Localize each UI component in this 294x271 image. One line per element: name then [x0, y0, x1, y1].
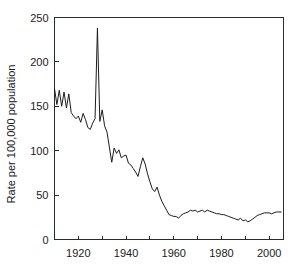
data-series-line	[55, 28, 282, 222]
x-tick-label: 1940	[114, 247, 138, 259]
y-axis-tick-labels: 050100150200250	[30, 12, 48, 246]
x-axis-tick-labels: 19201940196019802000	[66, 247, 281, 259]
y-tick-label: 200	[30, 56, 48, 68]
y-axis-ticks	[55, 18, 59, 240]
y-tick-label: 150	[30, 100, 48, 112]
x-tick-label: 1920	[66, 247, 90, 259]
x-tick-label: 1960	[162, 247, 186, 259]
y-tick-label: 0	[42, 234, 48, 246]
line-chart: 050100150200250 19201940196019802000 Rat…	[0, 0, 294, 271]
x-axis-ticks	[55, 236, 270, 240]
y-tick-label: 100	[30, 145, 48, 157]
y-tick-label: 50	[36, 189, 48, 201]
y-tick-label: 250	[30, 12, 48, 24]
data-series-group	[55, 28, 282, 222]
chart-figure: 050100150200250 19201940196019802000 Rat…	[0, 0, 294, 271]
y-axis-title: Rate per 100,000 population	[5, 65, 17, 204]
x-tick-label: 2000	[257, 247, 281, 259]
x-tick-label: 1980	[209, 247, 233, 259]
